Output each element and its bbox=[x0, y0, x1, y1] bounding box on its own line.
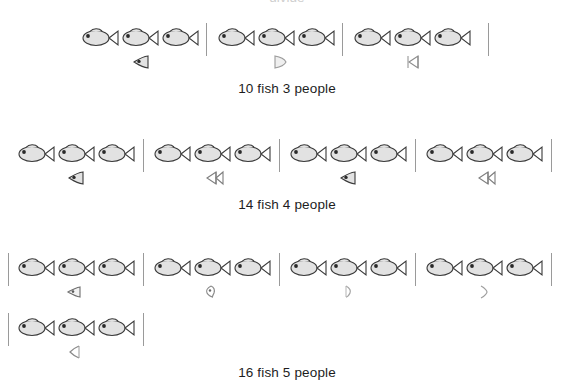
fish-icon bbox=[160, 24, 200, 50]
fish-group bbox=[424, 252, 546, 304]
fish-row bbox=[152, 138, 274, 168]
fish-group bbox=[80, 22, 202, 74]
fish-icon bbox=[392, 24, 432, 50]
fish-group bbox=[16, 252, 138, 304]
clipped-header: divide bbox=[0, 0, 574, 6]
group-divider bbox=[143, 139, 144, 172]
fish-group bbox=[16, 312, 138, 364]
fish-row bbox=[16, 252, 138, 282]
fish-head-fraction-icon bbox=[202, 282, 224, 302]
fish-icon bbox=[232, 254, 272, 280]
group-divider bbox=[143, 253, 144, 286]
fish-row bbox=[352, 22, 474, 52]
fish-icon bbox=[328, 254, 368, 280]
fraction-row bbox=[352, 52, 474, 74]
fish-row bbox=[288, 252, 410, 282]
problem-block-3: 16 fish 5 people bbox=[0, 252, 574, 364]
problem-caption: 10 fish 3 people bbox=[0, 81, 574, 96]
fraction-row bbox=[152, 282, 274, 304]
fish-group bbox=[152, 252, 274, 304]
fish-row bbox=[424, 138, 546, 168]
fraction-row bbox=[16, 342, 138, 364]
fish-icon bbox=[464, 254, 504, 280]
fish-row bbox=[16, 138, 138, 168]
fish-row bbox=[16, 312, 138, 342]
fish-icon bbox=[80, 24, 120, 50]
fish-icon bbox=[288, 140, 328, 166]
fish-line bbox=[0, 138, 574, 190]
fish-icon bbox=[256, 24, 296, 50]
fish-icon bbox=[152, 254, 192, 280]
fish-middle-fraction-icon bbox=[269, 52, 291, 72]
fish-icon bbox=[192, 140, 232, 166]
group-divider bbox=[279, 253, 280, 286]
fraction-row bbox=[424, 282, 546, 304]
fish-head-fraction-icon bbox=[66, 342, 88, 362]
group-divider bbox=[551, 139, 552, 172]
clipped-header-text: divide bbox=[0, 0, 574, 5]
fraction-row bbox=[288, 282, 410, 304]
fish-middle-fraction-icon bbox=[338, 282, 360, 302]
fish-icon bbox=[352, 24, 392, 50]
fish-group bbox=[288, 252, 410, 304]
fish-icon bbox=[232, 140, 272, 166]
fish-icon bbox=[120, 24, 160, 50]
fish-icon bbox=[424, 140, 464, 166]
fish-line bbox=[0, 252, 574, 304]
fish-icon bbox=[424, 254, 464, 280]
fish-head-fraction-icon bbox=[340, 168, 362, 188]
problem-caption: 16 fish 5 people bbox=[0, 365, 574, 380]
fraction-row bbox=[424, 168, 546, 190]
worksheet-canvas: divide bbox=[0, 0, 574, 380]
fraction-row bbox=[80, 52, 202, 74]
fish-group bbox=[352, 22, 474, 74]
fraction-row bbox=[288, 168, 410, 190]
fraction-row bbox=[152, 168, 274, 190]
fish-icon bbox=[16, 314, 56, 340]
fish-icon bbox=[504, 140, 544, 166]
fish-line-wrapped bbox=[0, 312, 574, 364]
group-divider bbox=[8, 253, 9, 286]
fish-group bbox=[16, 138, 138, 190]
fraction-row bbox=[16, 168, 138, 190]
fraction-row bbox=[16, 282, 138, 304]
fish-icon bbox=[192, 254, 232, 280]
fish-tail-fraction-icon bbox=[204, 168, 226, 188]
fish-group bbox=[152, 138, 274, 190]
fish-tail-fraction-icon bbox=[476, 168, 498, 188]
fish-icon bbox=[504, 254, 544, 280]
problem-block-2: 14 fish 4 people bbox=[0, 138, 574, 190]
fish-line bbox=[0, 22, 574, 74]
fish-row bbox=[216, 22, 338, 52]
fish-tail-fraction-icon bbox=[405, 52, 427, 72]
fish-row bbox=[424, 252, 546, 282]
fish-row bbox=[288, 138, 410, 168]
group-divider bbox=[279, 139, 280, 172]
fish-icon bbox=[152, 140, 192, 166]
fish-icon bbox=[296, 24, 336, 50]
group-divider bbox=[488, 23, 489, 56]
fish-icon bbox=[96, 140, 136, 166]
problem-block-1: 10 fish 3 people bbox=[0, 22, 574, 74]
group-divider bbox=[143, 313, 144, 346]
fish-group bbox=[288, 138, 410, 190]
fish-icon bbox=[368, 254, 408, 280]
fish-icon bbox=[16, 254, 56, 280]
group-divider bbox=[551, 253, 552, 286]
fish-row bbox=[80, 22, 202, 52]
fish-icon bbox=[56, 314, 96, 340]
group-divider bbox=[415, 139, 416, 172]
fish-tail-fraction-icon bbox=[474, 282, 496, 302]
fish-icon bbox=[56, 254, 96, 280]
fish-icon bbox=[432, 24, 472, 50]
group-divider bbox=[8, 313, 9, 346]
fish-icon bbox=[464, 140, 504, 166]
group-divider bbox=[415, 253, 416, 286]
fish-group bbox=[424, 138, 546, 190]
fish-icon bbox=[96, 314, 136, 340]
fish-head-fraction-icon bbox=[133, 52, 155, 72]
fish-icon bbox=[288, 254, 328, 280]
fish-icon bbox=[368, 140, 408, 166]
fish-group bbox=[216, 22, 338, 74]
fish-icon bbox=[328, 140, 368, 166]
